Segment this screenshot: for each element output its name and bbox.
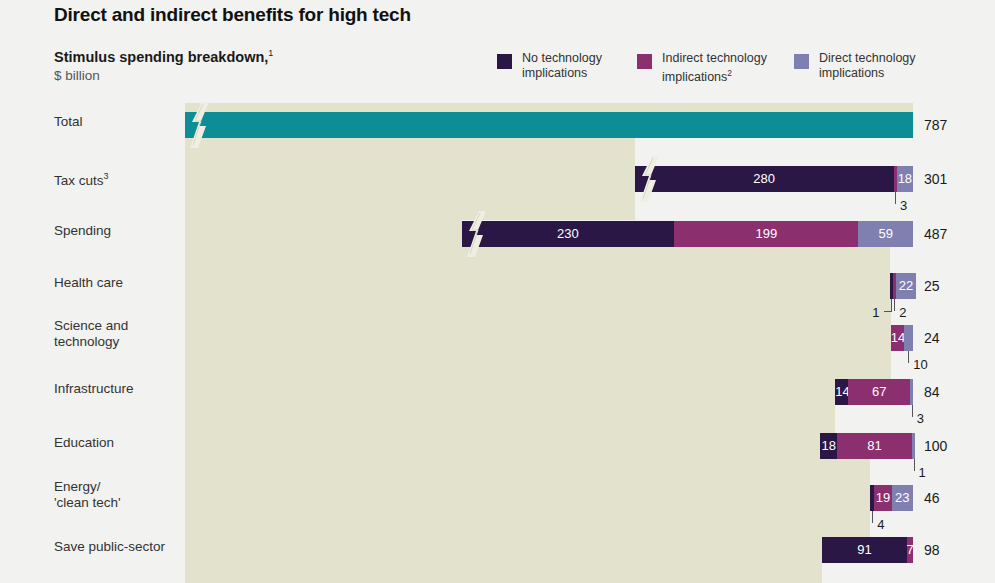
row-label-text-line2: technology bbox=[54, 334, 119, 349]
row-total-value: 84 bbox=[924, 379, 940, 405]
bar-row-0[interactable] bbox=[185, 112, 913, 138]
bar-segment-none[interactable]: 14 bbox=[835, 379, 848, 405]
bar-segment-value: 18 bbox=[820, 433, 837, 459]
cascade-step bbox=[185, 509, 822, 583]
row-label-7: Energy/'clean tech' bbox=[54, 479, 121, 511]
bar-segment-indirect[interactable]: 199 bbox=[674, 221, 858, 247]
callout-value: 4 bbox=[877, 517, 884, 532]
bar-segment-value: 199 bbox=[674, 221, 858, 247]
row-label-text: Spending bbox=[54, 223, 111, 238]
bar-row-5[interactable]: 1467 bbox=[835, 379, 913, 405]
bar-segment-none[interactable]: 280 bbox=[635, 166, 894, 192]
bar-segment-indirect[interactable]: 14 bbox=[891, 325, 904, 351]
callout-elbow bbox=[884, 311, 892, 312]
bar-segment-none[interactable]: 230 bbox=[462, 221, 675, 247]
chart-subtitle: Stimulus spending breakdown,1 bbox=[54, 48, 273, 65]
row-total-value: 787 bbox=[924, 112, 947, 138]
row-label-text: Save public-sector bbox=[54, 539, 165, 554]
row-label-2: Spending bbox=[54, 223, 111, 239]
row-label-3: Health care bbox=[54, 275, 123, 291]
row-label-text: Energy/ bbox=[54, 479, 101, 494]
bar-row-3[interactable]: 22 bbox=[890, 273, 913, 299]
bar-segment-value: 59 bbox=[858, 221, 913, 247]
callout-value: 3 bbox=[917, 411, 924, 426]
row-label-text: Education bbox=[54, 435, 114, 450]
callout-leader-line bbox=[895, 192, 896, 204]
callout-value: 1 bbox=[919, 465, 926, 480]
row-label-text-line2: 'clean tech' bbox=[54, 495, 121, 510]
bar-segment-value: 23 bbox=[892, 485, 913, 511]
bar-segment-value: 22 bbox=[896, 273, 916, 299]
row-label-0: Total bbox=[54, 114, 83, 130]
bar-row-8[interactable]: 917 bbox=[822, 537, 913, 563]
bar-segment-indirect[interactable]: 81 bbox=[837, 433, 912, 459]
bar-row-1[interactable]: 28018 bbox=[635, 166, 913, 192]
row-label-text: Health care bbox=[54, 275, 123, 290]
bar-segment-direct[interactable]: 59 bbox=[858, 221, 913, 247]
bar-segment-teal[interactable] bbox=[185, 112, 913, 138]
row-label-text: Tax cuts bbox=[54, 173, 104, 188]
legend-swatch-indirect-technology bbox=[637, 54, 652, 69]
bar-segment-value: 14 bbox=[835, 379, 848, 405]
chart-plot-area: Total787Tax cuts3280183013Spending230199… bbox=[0, 103, 995, 552]
bar-row-2[interactable]: 23019959 bbox=[462, 221, 913, 247]
chart-units-label: $ billion bbox=[54, 68, 100, 83]
row-label-8: Save public-sector bbox=[54, 539, 165, 555]
bar-segment-value: 91 bbox=[822, 537, 906, 563]
legend-label-direct-technology: Direct technology implications bbox=[819, 51, 934, 81]
callout-leader-line bbox=[914, 459, 915, 471]
page-title: Direct and indirect benefits for high te… bbox=[54, 4, 411, 26]
bar-segment-indirect[interactable]: 19 bbox=[874, 485, 892, 511]
row-total-value: 487 bbox=[924, 221, 947, 247]
row-total-value: 46 bbox=[924, 485, 940, 511]
bar-segment-value: 18 bbox=[897, 166, 914, 192]
bar-segment-direct[interactable]: 22 bbox=[896, 273, 916, 299]
bar-segment-direct[interactable]: 18 bbox=[897, 166, 914, 192]
row-total-value: 301 bbox=[924, 166, 947, 192]
bar-row-4[interactable]: 14 bbox=[891, 325, 913, 351]
callout-leader-line bbox=[912, 405, 913, 417]
row-label-text: Total bbox=[54, 114, 83, 129]
bar-segment-none[interactable]: 18 bbox=[820, 433, 837, 459]
callout-value: 1 bbox=[872, 305, 879, 320]
row-label-text: Infrastructure bbox=[54, 381, 134, 396]
bar-segment-value: 14 bbox=[891, 325, 904, 351]
bar-segment-direct[interactable] bbox=[910, 379, 913, 405]
chart-subtitle-footnote: 1 bbox=[268, 48, 273, 58]
callout-leader-line bbox=[891, 299, 892, 311]
bar-segment-value: 19 bbox=[874, 485, 892, 511]
callout-leader-line bbox=[894, 299, 895, 311]
bar-segment-value: 230 bbox=[462, 221, 675, 247]
row-total-value: 24 bbox=[924, 325, 940, 351]
row-label-5: Infrastructure bbox=[54, 381, 134, 397]
legend-swatch-no-technology bbox=[497, 54, 512, 69]
legend-label-indirect-technology: Indirect technology implications2 bbox=[662, 51, 777, 85]
chart-subtitle-text: Stimulus spending breakdown, bbox=[54, 49, 268, 65]
bar-segment-indirect[interactable]: 67 bbox=[848, 379, 910, 405]
legend-swatch-direct-technology bbox=[794, 54, 809, 69]
legend-label-no-technology: No technology implications bbox=[522, 51, 637, 81]
bar-segment-none[interactable]: 91 bbox=[822, 537, 906, 563]
bar-row-7[interactable]: 1923 bbox=[870, 485, 913, 511]
bar-segment-direct[interactable] bbox=[912, 433, 915, 459]
bar-segment-value: 81 bbox=[837, 433, 912, 459]
bar-segment-value: 280 bbox=[635, 166, 894, 192]
row-label-text: Science and bbox=[54, 318, 128, 333]
row-label-6: Education bbox=[54, 435, 114, 451]
row-total-value: 25 bbox=[924, 273, 940, 299]
bar-segment-direct[interactable]: 23 bbox=[892, 485, 913, 511]
row-label-4: Science andtechnology bbox=[54, 318, 128, 350]
callout-leader-line bbox=[908, 351, 909, 363]
row-total-value: 100 bbox=[924, 433, 947, 459]
row-label-1: Tax cuts3 bbox=[54, 168, 109, 189]
bar-segment-direct[interactable] bbox=[904, 325, 913, 351]
bar-segment-indirect[interactable]: 7 bbox=[907, 537, 913, 563]
callout-value: 3 bbox=[900, 198, 907, 213]
bar-row-6[interactable]: 1881 bbox=[820, 433, 913, 459]
bar-segment-value: 7 bbox=[907, 537, 913, 563]
callout-leader-line bbox=[872, 511, 873, 523]
row-total-value: 98 bbox=[924, 537, 940, 563]
callout-value: 2 bbox=[899, 305, 906, 320]
row-label-footnote: 3 bbox=[104, 171, 109, 181]
